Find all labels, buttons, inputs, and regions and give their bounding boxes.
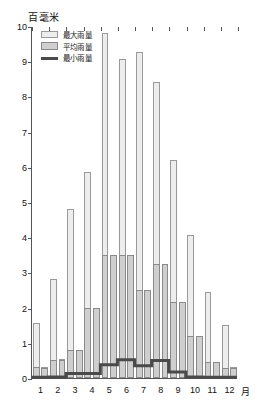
- legend-item-avg: 平均雨量: [41, 42, 92, 51]
- legend-label-max: 最大雨量: [63, 29, 92, 40]
- x-axis-tick-label: 1: [38, 385, 43, 395]
- x-axis-tick-label: 7: [141, 385, 146, 395]
- plot-inner: 012345678910123456789101112: [32, 27, 237, 378]
- x-axis-tick-label: 6: [124, 385, 129, 395]
- x-axis-tick-mark: [101, 27, 102, 31]
- x-axis-tick-label: 9: [175, 385, 180, 395]
- x-axis-tick-label: 10: [190, 385, 200, 395]
- x-axis-tick-mark: [152, 27, 153, 31]
- x-axis-tick-label: 8: [158, 385, 163, 395]
- x-axis-tick-mark: [169, 27, 170, 31]
- x-axis-tick-mark: [238, 27, 239, 31]
- legend-item-max: 最大雨量: [41, 30, 92, 39]
- x-axis-tick-label: 2: [55, 385, 60, 395]
- x-axis-tick-mark: [135, 27, 136, 31]
- x-axis-tick-label: 4: [90, 385, 95, 395]
- legend-label-min: 最小雨量: [63, 52, 92, 63]
- legend-label-avg: 平均雨量: [63, 41, 92, 52]
- y-axis-tick-mark: [28, 379, 32, 380]
- plot-area: 012345678910123456789101112: [31, 27, 237, 379]
- x-axis-tick-label: 11: [208, 385, 217, 395]
- x-axis-tick-label: 5: [107, 385, 112, 395]
- min-rainfall-step-line: [32, 27, 237, 378]
- x-axis-tick-mark: [204, 27, 205, 31]
- x-axis-tick-mark: [187, 27, 188, 31]
- x-axis-tick-mark: [32, 27, 33, 31]
- x-axis-tick-mark: [221, 27, 222, 31]
- x-axis-tick-mark: [118, 27, 119, 31]
- x-axis-tick-label: 12: [224, 385, 234, 395]
- rainfall-chart: 百毫米 012345678910123456789101112 月 最大雨量 平…: [0, 0, 267, 411]
- min-rainfall-path: [32, 360, 237, 378]
- legend-item-min: 最小雨量: [41, 53, 92, 62]
- avg-swatch-icon: [41, 42, 58, 50]
- x-axis-unit-label: 月: [241, 385, 250, 398]
- x-axis-tick-label: 3: [72, 385, 77, 395]
- max-swatch-icon: [41, 31, 58, 39]
- min-swatch-icon: [41, 57, 58, 60]
- chart-legend: 最大雨量 平均雨量 最小雨量: [41, 30, 92, 65]
- y-axis-title: 百毫米: [28, 9, 60, 24]
